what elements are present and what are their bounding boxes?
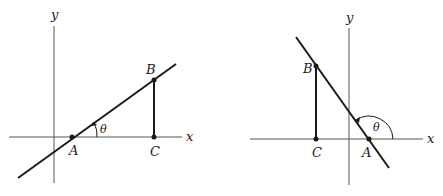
left-point-b (152, 78, 157, 83)
left-x-label: x (186, 129, 194, 144)
left-label-c: C (150, 144, 160, 159)
left-label-a: A (68, 143, 78, 158)
left-y-label: y (50, 7, 59, 22)
right-point-a (367, 137, 372, 142)
left-theta-label: θ (100, 123, 107, 136)
left-point-c (152, 135, 157, 140)
right-point-b (314, 64, 319, 69)
right-label-c: C (312, 145, 322, 160)
diagram-canvas: y x A B C θ y x A B C θ (0, 0, 443, 196)
right-line (296, 37, 389, 168)
right-y-label: y (345, 10, 354, 25)
right-point-c (314, 137, 319, 142)
left-point-a (70, 135, 75, 140)
left-label-b: B (145, 62, 156, 77)
left-figure: y x A B C θ (9, 7, 194, 183)
right-label-b: B (302, 61, 313, 76)
right-figure: y x A B C θ (250, 10, 435, 185)
right-label-a: A (361, 145, 371, 160)
right-x-label: x (427, 131, 435, 146)
right-theta-label: θ (373, 121, 380, 134)
